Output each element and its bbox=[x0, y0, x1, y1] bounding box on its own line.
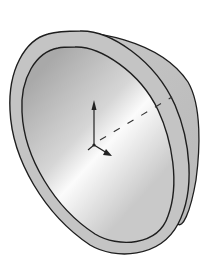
triad-origin bbox=[92, 143, 95, 146]
dome-shell-drawing bbox=[0, 0, 216, 265]
